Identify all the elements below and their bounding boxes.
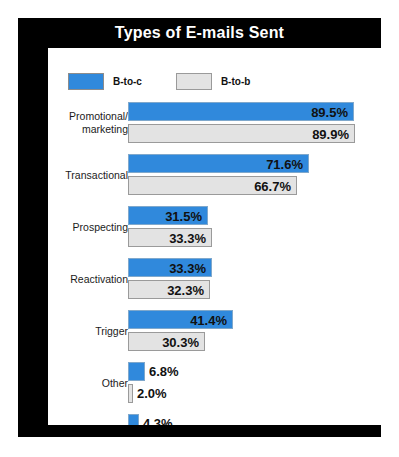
bar-row-b-to-b: 30.3%	[128, 332, 381, 351]
page-title: Types of E-mails Sent	[115, 24, 284, 42]
bar-row-b-to-b: 33.3%	[128, 228, 381, 247]
bar-b-to-b: 32.3%	[128, 280, 210, 299]
bar-group: Transactional71.6%66.7%	[48, 152, 381, 198]
bar-group: Prospecting31.5%33.3%	[48, 204, 381, 250]
category-label-line: Promotional/	[69, 110, 128, 123]
bar-b-to-c: 89.5%	[128, 102, 354, 121]
category-label: Transactional	[48, 152, 128, 198]
legend-swatch-b-to-b	[176, 73, 212, 90]
bar-track-pair: 89.5%89.9%	[128, 100, 381, 146]
bar-group: Other6.8%2.0%	[48, 360, 381, 406]
bar-value-label: 71.6%	[266, 155, 303, 174]
category-label: Promotional/marketing	[48, 100, 128, 146]
bar-row-b-to-c: 33.3%	[128, 258, 381, 277]
chart-legend: B-to-c B-to-b	[68, 71, 284, 91]
chart-title-bar: Types of E-mails Sent	[18, 18, 381, 48]
category-label: None	[48, 412, 128, 425]
bar-value-label: 33.3%	[169, 259, 206, 278]
category-label-line: marketing	[82, 123, 128, 136]
bar-track-pair: 4.3%5.1%	[128, 412, 381, 425]
legend-swatch-b-to-c	[68, 73, 104, 90]
chart-plot-area: B-to-c B-to-b Promotional/marketing89.5%…	[48, 48, 381, 425]
bar-row-b-to-b: 32.3%	[128, 280, 381, 299]
legend-item-b-to-b: B-to-b	[176, 73, 250, 90]
bar-row-b-to-c: 6.8%	[128, 362, 381, 381]
bar-b-to-b	[128, 384, 133, 403]
bar-track-pair: 41.4%30.3%	[128, 308, 381, 354]
chart-frame: Types of E-mails Sent B-to-c B-to-b Prom…	[18, 18, 381, 437]
bar-value-label: 32.3%	[167, 281, 204, 300]
bar-b-to-c: 33.3%	[128, 258, 212, 277]
category-label-line: Other	[102, 377, 128, 390]
bar-value-label: 6.8%	[149, 362, 179, 381]
category-label: Trigger	[48, 308, 128, 354]
bar-group: Reactivation33.3%32.3%	[48, 256, 381, 302]
bar-value-label: 30.3%	[162, 333, 199, 352]
legend-label-b-to-b: B-to-b	[221, 76, 250, 87]
bar-b-to-b: 89.9%	[128, 124, 355, 143]
bar-row-b-to-c: 89.5%	[128, 102, 381, 121]
bar-track-pair: 6.8%2.0%	[128, 360, 381, 406]
bar-track-pair: 33.3%32.3%	[128, 256, 381, 302]
bar-b-to-b: 30.3%	[128, 332, 205, 351]
legend-label-b-to-c: B-to-c	[113, 76, 142, 87]
category-label-line: Transactional	[65, 169, 128, 182]
bar-track-pair: 71.6%66.7%	[128, 152, 381, 198]
bar-group-list: Promotional/marketing89.5%89.9%Transacti…	[48, 100, 381, 425]
bar-value-label: 89.9%	[312, 125, 349, 144]
category-label-line: Trigger	[95, 325, 128, 338]
bar-row-b-to-b: 66.7%	[128, 176, 381, 195]
bar-group: Trigger41.4%30.3%	[48, 308, 381, 354]
category-label: Reactivation	[48, 256, 128, 302]
category-label-line: Reactivation	[70, 273, 128, 286]
category-label-line: Prospecting	[73, 221, 128, 234]
bar-b-to-c	[128, 362, 145, 381]
bar-b-to-b: 66.7%	[128, 176, 297, 195]
bar-b-to-c: 71.6%	[128, 154, 309, 173]
bar-row-b-to-c: 71.6%	[128, 154, 381, 173]
frame-bottom	[18, 425, 381, 437]
legend-item-b-to-c: B-to-c	[68, 73, 142, 90]
bar-row-b-to-c: 31.5%	[128, 206, 381, 225]
bar-value-label: 33.3%	[169, 229, 206, 248]
bar-value-label: 31.5%	[165, 207, 202, 226]
bar-value-label: 4.3%	[143, 414, 173, 425]
bar-track-pair: 31.5%33.3%	[128, 204, 381, 250]
bar-row-b-to-b: 89.9%	[128, 124, 381, 143]
bar-row-b-to-c: 41.4%	[128, 310, 381, 329]
bar-group: Promotional/marketing89.5%89.9%	[48, 100, 381, 146]
bar-row-b-to-c: 4.3%	[128, 414, 381, 425]
bar-value-label: 41.4%	[190, 311, 227, 330]
bar-b-to-c: 41.4%	[128, 310, 233, 329]
bar-b-to-c	[128, 414, 139, 425]
bar-b-to-c: 31.5%	[128, 206, 208, 225]
bar-group: None4.3%5.1%	[48, 412, 381, 425]
bar-value-label: 89.5%	[311, 103, 348, 122]
bar-value-label: 2.0%	[137, 384, 167, 403]
bar-row-b-to-b: 2.0%	[128, 384, 381, 403]
bar-b-to-b: 33.3%	[128, 228, 212, 247]
category-label: Other	[48, 360, 128, 406]
category-label: Prospecting	[48, 204, 128, 250]
bar-value-label: 66.7%	[254, 177, 291, 196]
